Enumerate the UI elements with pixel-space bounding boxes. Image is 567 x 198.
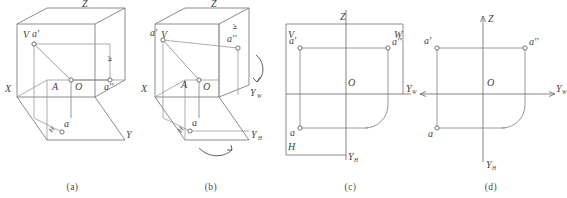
- caption-a: (a): [0, 182, 145, 192]
- panel-a-drawing: Z X Y V H W O A a' a a'': [0, 0, 145, 198]
- label-h-plane: H: [287, 141, 296, 152]
- panel-b-drawing: Z X Y H Y W V H W O A a' a a'': [137, 0, 285, 198]
- label-w-plane: W: [231, 23, 239, 30]
- caption-d: (d): [415, 182, 567, 192]
- quarter-arc-45: [502, 105, 525, 128]
- label-origin: O: [348, 77, 355, 88]
- label-v-plane: V: [161, 29, 169, 40]
- label-y-h-subscript: H: [353, 157, 359, 163]
- label-z-axis: Z: [488, 13, 494, 24]
- h-plane-outline: [155, 97, 249, 140]
- label-a-top: a: [428, 128, 433, 139]
- point-a-side: [236, 46, 240, 50]
- point-a-front: [298, 46, 302, 50]
- label-origin: O: [203, 81, 210, 92]
- ray-a-to-afront: [34, 44, 71, 80]
- label-x-axis: X: [140, 83, 148, 94]
- label-a-front: a': [424, 35, 432, 46]
- x-axis-segment: [17, 80, 47, 97]
- point-a-front: [32, 42, 36, 46]
- point-a-side: [523, 46, 527, 50]
- label-y-w-axis: Y: [250, 87, 257, 98]
- caption-b: (b): [137, 182, 285, 192]
- label-a-side: a'': [104, 81, 114, 92]
- label-y-h-subscript: H: [257, 135, 263, 141]
- rotation-arrow-h: [199, 148, 232, 156]
- point-a-top: [298, 126, 302, 130]
- label-a-front: a': [289, 35, 297, 46]
- point-A-space: [197, 78, 201, 82]
- label-a-front: a': [150, 27, 158, 38]
- label-a-top: a: [64, 118, 69, 129]
- label-z-axis: Z: [211, 0, 217, 9]
- label-a-side: a'': [392, 36, 402, 47]
- panel-b: Z X Y H Y W V H W O A a' a a'' (b): [137, 0, 285, 198]
- caption-c: (c): [278, 182, 423, 192]
- v-plane-top-face: [155, 8, 249, 24]
- label-z-axis: Z: [340, 11, 346, 22]
- point-a-front: [435, 46, 439, 50]
- point-a-top: [435, 126, 439, 130]
- label-y-w-subscript: W: [257, 93, 262, 99]
- label-y-w-subscript: W: [562, 89, 567, 95]
- point-A-space: [69, 78, 73, 82]
- panel-a: Z X Y V H W O A a' a a'' (a): [0, 0, 145, 198]
- label-a-top: a: [192, 117, 197, 128]
- label-y-h-axis: Y: [251, 129, 258, 140]
- label-a-top: a: [290, 127, 295, 138]
- label-a-side: a'': [529, 36, 539, 47]
- rotation-arrow-h-head: [227, 145, 232, 150]
- label-y-axis: Y: [126, 129, 133, 140]
- panel-c: Z V W H O Y W Y H a' a'' a (c): [278, 0, 423, 198]
- label-point-A: A: [180, 79, 188, 90]
- point-a-top: [188, 129, 192, 133]
- label-x-axis: X: [4, 83, 12, 94]
- projection-figure: Z X Y V H W O A a' a a'' (a): [0, 0, 567, 198]
- point-a-side: [386, 46, 390, 50]
- label-y-h-subscript: H: [491, 165, 497, 171]
- point-a-top: [60, 130, 64, 134]
- label-a-front: a': [32, 28, 40, 39]
- box-top-face: [17, 8, 125, 24]
- label-v-plane: V: [23, 29, 31, 40]
- ray-a-to-afront: [163, 40, 199, 80]
- label-origin: O: [487, 77, 494, 88]
- panel-d-drawing: Z O Y W Y H a' a'' a: [415, 0, 567, 198]
- rotation-arrow-w-head: [253, 77, 260, 82]
- label-origin: O: [75, 81, 82, 92]
- panel-d: Z O Y W Y H a' a'' a (d): [415, 0, 567, 198]
- label-z-axis: Z: [82, 0, 88, 9]
- label-h-plane: H: [47, 125, 58, 135]
- label-point-A: A: [51, 81, 59, 92]
- panel-c-drawing: Z V W H O Y W Y H a' a'' a: [278, 0, 423, 198]
- quarter-arc-45: [365, 105, 388, 128]
- label-a-side: a'': [227, 33, 237, 44]
